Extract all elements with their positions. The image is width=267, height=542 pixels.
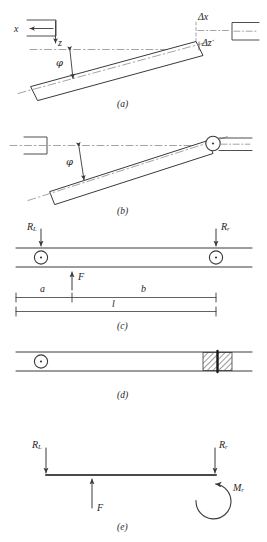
panel-a-axis-bracket bbox=[27, 20, 56, 36]
panel-a-graphics bbox=[18, 20, 259, 101]
right-reaction-label-e: Rr bbox=[219, 440, 228, 451]
panel-c-graphics bbox=[16, 229, 252, 316]
panel-c-dimension-ab bbox=[16, 293, 216, 302]
right-reaction-subscript-e: r bbox=[225, 443, 228, 450]
force-label-e: F bbox=[97, 503, 103, 513]
left-reaction-subscript-e: L bbox=[38, 443, 42, 450]
engineering-figure: x z Δx Δz φ (a) φ (b) RL Rr F a b l (c) … bbox=[0, 0, 267, 542]
phi-angle-label-b: φ bbox=[66, 157, 73, 167]
panel-e-moment-arc bbox=[196, 484, 231, 519]
dimension-l-label: l bbox=[112, 299, 115, 309]
phi-angle-arrow-b bbox=[79, 147, 84, 180]
panel-b-pin-joint bbox=[206, 136, 252, 150]
panel-a-right-bracket bbox=[232, 23, 259, 41]
panel-d-graphics bbox=[16, 351, 252, 372]
panel-c-left-pin bbox=[34, 251, 47, 264]
panel-c-dimension-l bbox=[16, 307, 216, 316]
panel-d-left-pin bbox=[34, 355, 47, 368]
z-axis-label: z bbox=[58, 38, 62, 48]
phi-angle-label-a: φ bbox=[56, 58, 63, 68]
left-reaction-label-c: RL bbox=[27, 222, 37, 233]
right-reaction-label-c: Rr bbox=[221, 222, 230, 233]
left-reaction-subscript-c: L bbox=[33, 225, 37, 232]
left-reaction-label-e: RL bbox=[32, 440, 42, 451]
moment-label-e: Mr bbox=[233, 483, 244, 494]
figure-svg bbox=[0, 0, 267, 542]
panel-c-right-pin bbox=[209, 251, 222, 264]
delta-x-label: Δx bbox=[198, 12, 208, 22]
x-axis-label: x bbox=[14, 24, 18, 34]
panel-b-graphics bbox=[10, 136, 252, 204]
panel-e-graphics bbox=[46, 448, 231, 519]
phi-angle-arrow-a bbox=[70, 51, 73, 79]
panel-c-label: (c) bbox=[117, 322, 128, 332]
dimension-a-label: a bbox=[40, 284, 45, 294]
panel-d-label: (d) bbox=[117, 391, 128, 401]
panel-a-label: (a) bbox=[117, 100, 128, 110]
panel-b-tilted-shaft bbox=[28, 137, 228, 205]
moment-subscript: r bbox=[241, 486, 244, 493]
panel-b-label: (b) bbox=[117, 207, 128, 217]
delta-z-label: Δz bbox=[202, 38, 212, 48]
force-label-c: F bbox=[78, 272, 84, 282]
dimension-b-label: b bbox=[141, 284, 146, 294]
right-reaction-subscript-c: r bbox=[227, 225, 230, 232]
panel-d-fixed-clamp bbox=[203, 351, 232, 372]
panel-e-label: (e) bbox=[117, 523, 128, 533]
